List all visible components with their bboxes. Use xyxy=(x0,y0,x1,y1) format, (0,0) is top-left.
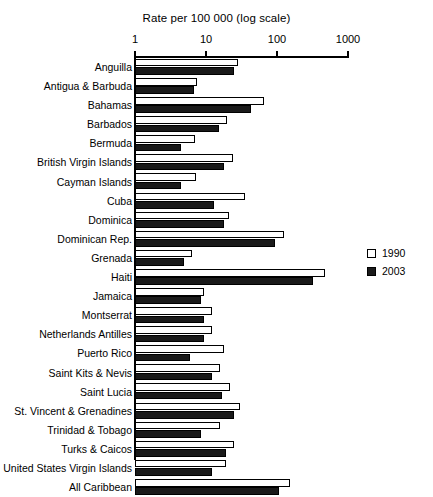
legend-label-2003: 2003 xyxy=(382,266,405,277)
bar-row: Anguilla xyxy=(0,58,433,77)
category-label: Cuba xyxy=(0,193,132,210)
bar-1990 xyxy=(135,135,195,143)
bar-1990 xyxy=(135,403,240,411)
bar-2003 xyxy=(135,220,224,228)
legend-item-1990: 1990 xyxy=(367,248,405,259)
category-label: Dominican Rep. xyxy=(0,231,132,248)
bar-row: Montserrat xyxy=(0,306,433,325)
bar-2003 xyxy=(135,296,201,304)
category-label: Anguilla xyxy=(0,59,132,76)
category-label: Saint Lucia xyxy=(0,384,132,401)
bar-2003 xyxy=(135,468,212,476)
bar-1990 xyxy=(135,460,226,468)
bar-1990 xyxy=(135,364,220,372)
bar-row: Saint Kits & Nevis xyxy=(0,364,433,383)
legend-label-1990: 1990 xyxy=(382,248,405,259)
bar-2003 xyxy=(135,239,275,247)
bar-2003 xyxy=(135,258,184,266)
bar-2003 xyxy=(135,335,204,343)
x-axis-tick-label: 1 xyxy=(132,33,138,45)
bar-2003 xyxy=(135,163,224,171)
bar-2003 xyxy=(135,430,201,438)
chart-legend: 1990 2003 xyxy=(367,248,405,284)
bar-1990 xyxy=(135,193,245,201)
category-label: British Virgin Islands xyxy=(0,154,132,171)
bar-1990 xyxy=(135,326,212,334)
bar-2003 xyxy=(135,201,214,209)
x-axis-tick-label: 1000 xyxy=(336,33,360,45)
bar-row: Trinidad & Tobago xyxy=(0,421,433,440)
bar-row: Antigua & Barbuda xyxy=(0,77,433,96)
bar-row: Turks & Caicos xyxy=(0,440,433,459)
bar-2003 xyxy=(135,392,222,400)
bar-row: Dominican Rep. xyxy=(0,230,433,249)
bar-1990 xyxy=(135,116,227,124)
bar-row: Cayman Islands xyxy=(0,173,433,192)
bar-1990 xyxy=(135,269,325,277)
category-label: Grenada xyxy=(0,250,132,267)
bar-row: Puerto Rico xyxy=(0,344,433,363)
bar-1990 xyxy=(135,78,197,86)
bar-2003 xyxy=(135,487,279,495)
category-label: Bahamas xyxy=(0,97,132,114)
bar-2003 xyxy=(135,449,226,457)
bar-row: Bahamas xyxy=(0,96,433,115)
bar-1990 xyxy=(135,173,196,181)
category-label: Jamaica xyxy=(0,288,132,305)
bar-1990 xyxy=(135,479,290,487)
bar-1990 xyxy=(135,422,220,430)
category-label: All Caribbean xyxy=(0,479,132,496)
bar-2003 xyxy=(135,373,212,381)
bar-1990 xyxy=(135,59,238,67)
bar-1990 xyxy=(135,231,284,239)
bar-2003 xyxy=(135,411,234,419)
bar-1990 xyxy=(135,383,230,391)
bar-row: Barbados xyxy=(0,115,433,134)
bar-2003 xyxy=(135,354,190,362)
bar-1990 xyxy=(135,307,212,315)
bar-1990 xyxy=(135,441,234,449)
category-label: Haiti xyxy=(0,269,132,286)
bar-row: United States Virgin Islands xyxy=(0,459,433,478)
bar-row: Saint Lucia xyxy=(0,383,433,402)
category-label: Puerto Rico xyxy=(0,345,132,362)
bar-1990 xyxy=(135,345,224,353)
legend-item-2003: 2003 xyxy=(367,266,405,277)
bar-2003 xyxy=(135,105,251,113)
bar-1990 xyxy=(135,250,192,258)
category-label: Montserrat xyxy=(0,307,132,324)
legend-swatch-1990 xyxy=(367,249,376,258)
bar-2003 xyxy=(135,125,219,133)
bar-1990 xyxy=(135,97,264,105)
x-axis-tick-label: 10 xyxy=(200,33,212,45)
bar-row: Netherlands Antilles xyxy=(0,325,433,344)
bar-row: Bermuda xyxy=(0,134,433,153)
category-label: Trinidad & Tobago xyxy=(0,422,132,439)
x-axis-tick xyxy=(347,51,349,57)
category-label: Saint Kits & Nevis xyxy=(0,365,132,382)
bar-row: All Caribbean xyxy=(0,478,433,497)
bar-row: Jamaica xyxy=(0,287,433,306)
bar-2003 xyxy=(135,182,181,190)
category-label: St. Vincent & Grenadines xyxy=(0,403,132,420)
x-axis-tick xyxy=(134,51,136,57)
x-axis-tick-label: 100 xyxy=(268,33,286,45)
bar-1990 xyxy=(135,212,229,220)
bar-2003 xyxy=(135,144,181,152)
bar-1990 xyxy=(135,288,204,296)
bar-row: British Virgin Islands xyxy=(0,153,433,172)
bar-row: St. Vincent & Grenadines xyxy=(0,402,433,421)
category-label: Netherlands Antilles xyxy=(0,326,132,343)
bar-row: Dominica xyxy=(0,211,433,230)
bar-2003 xyxy=(135,316,204,324)
category-label: Dominica xyxy=(0,212,132,229)
category-label: Cayman Islands xyxy=(0,174,132,191)
category-label: Antigua & Barbuda xyxy=(0,78,132,95)
x-axis-tick xyxy=(205,51,207,57)
category-label: Barbados xyxy=(0,116,132,133)
bar-1990 xyxy=(135,154,233,162)
category-label: United States Virgin Islands xyxy=(0,460,132,477)
x-axis-tick xyxy=(276,51,278,57)
bar-2003 xyxy=(135,67,234,75)
